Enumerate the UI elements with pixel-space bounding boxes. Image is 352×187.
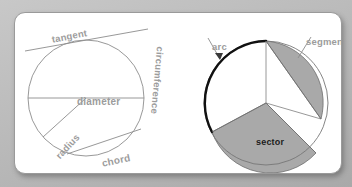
label-diameter: diameter	[77, 97, 120, 107]
diagram-panel: tangent circumference diameter radius ch…	[14, 12, 342, 174]
figure-root: tangent circumference diameter radius ch…	[0, 0, 352, 187]
diagram-panel-inner: tangent circumference diameter radius ch…	[15, 13, 341, 173]
label-segment: segment	[306, 37, 342, 47]
label-sector: sector	[256, 138, 284, 147]
label-arc: arc	[212, 42, 227, 52]
